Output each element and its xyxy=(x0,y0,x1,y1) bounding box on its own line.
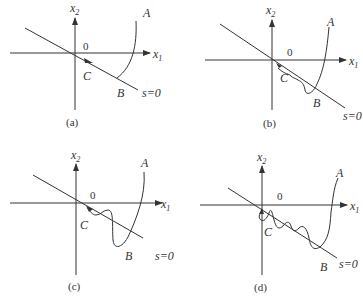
label-C: C xyxy=(83,69,92,83)
label-C: C xyxy=(280,71,289,85)
switching-line-label: s=0 xyxy=(339,257,358,271)
origin-label: 0 xyxy=(277,190,283,202)
caption-b: (b) xyxy=(263,117,276,130)
x1-label: x1 xyxy=(348,54,358,70)
switching-line-label: s=0 xyxy=(155,249,174,263)
x2-label: x2 xyxy=(265,3,275,19)
x2-label: x2 xyxy=(69,1,79,17)
x1-label: x1 xyxy=(152,47,162,63)
switching-line xyxy=(228,188,337,258)
direction-arrow-icon xyxy=(84,58,93,63)
trajectory xyxy=(117,21,136,78)
switching-line xyxy=(220,24,345,108)
panel-d: x2 A 0 x1 C B s=0 (d) xyxy=(200,150,359,294)
x2-label: x2 xyxy=(256,150,266,166)
label-B: B xyxy=(117,86,125,100)
panel-b: x2 A 0 x1 C B s=0 (b) xyxy=(205,3,362,130)
switching-line-label: s=0 xyxy=(142,86,161,100)
origin-label: 0 xyxy=(83,40,89,52)
sliding-mode-figure: x2 A 0 x1 C B s=0 (a) x2 A 0 x1 C B s=0 … xyxy=(0,0,363,302)
label-C: C xyxy=(80,218,89,232)
label-B: B xyxy=(125,249,133,263)
caption-a: (a) xyxy=(66,116,79,129)
caption-d: (d) xyxy=(254,281,267,294)
label-A: A xyxy=(142,6,151,20)
origin-label: 0 xyxy=(287,46,293,58)
x1-label: x1 xyxy=(349,199,359,215)
label-A: A xyxy=(140,156,149,170)
panel-c: x2 A 0 x1 C B s=0 (c) xyxy=(10,148,174,293)
x2-label: x2 xyxy=(70,148,80,164)
origin-label: 0 xyxy=(90,189,96,201)
x1-label: x1 xyxy=(160,197,170,213)
trajectory xyxy=(88,172,144,246)
label-B: B xyxy=(313,96,321,110)
label-C: C xyxy=(264,225,273,239)
label-B: B xyxy=(320,260,328,274)
caption-c: (c) xyxy=(68,280,81,293)
label-A: A xyxy=(335,166,344,180)
label-A: A xyxy=(326,15,335,29)
switching-line-label: s=0 xyxy=(343,109,362,123)
panel-a: x2 A 0 x1 C B s=0 (a) xyxy=(10,1,162,129)
switching-line xyxy=(25,28,138,90)
